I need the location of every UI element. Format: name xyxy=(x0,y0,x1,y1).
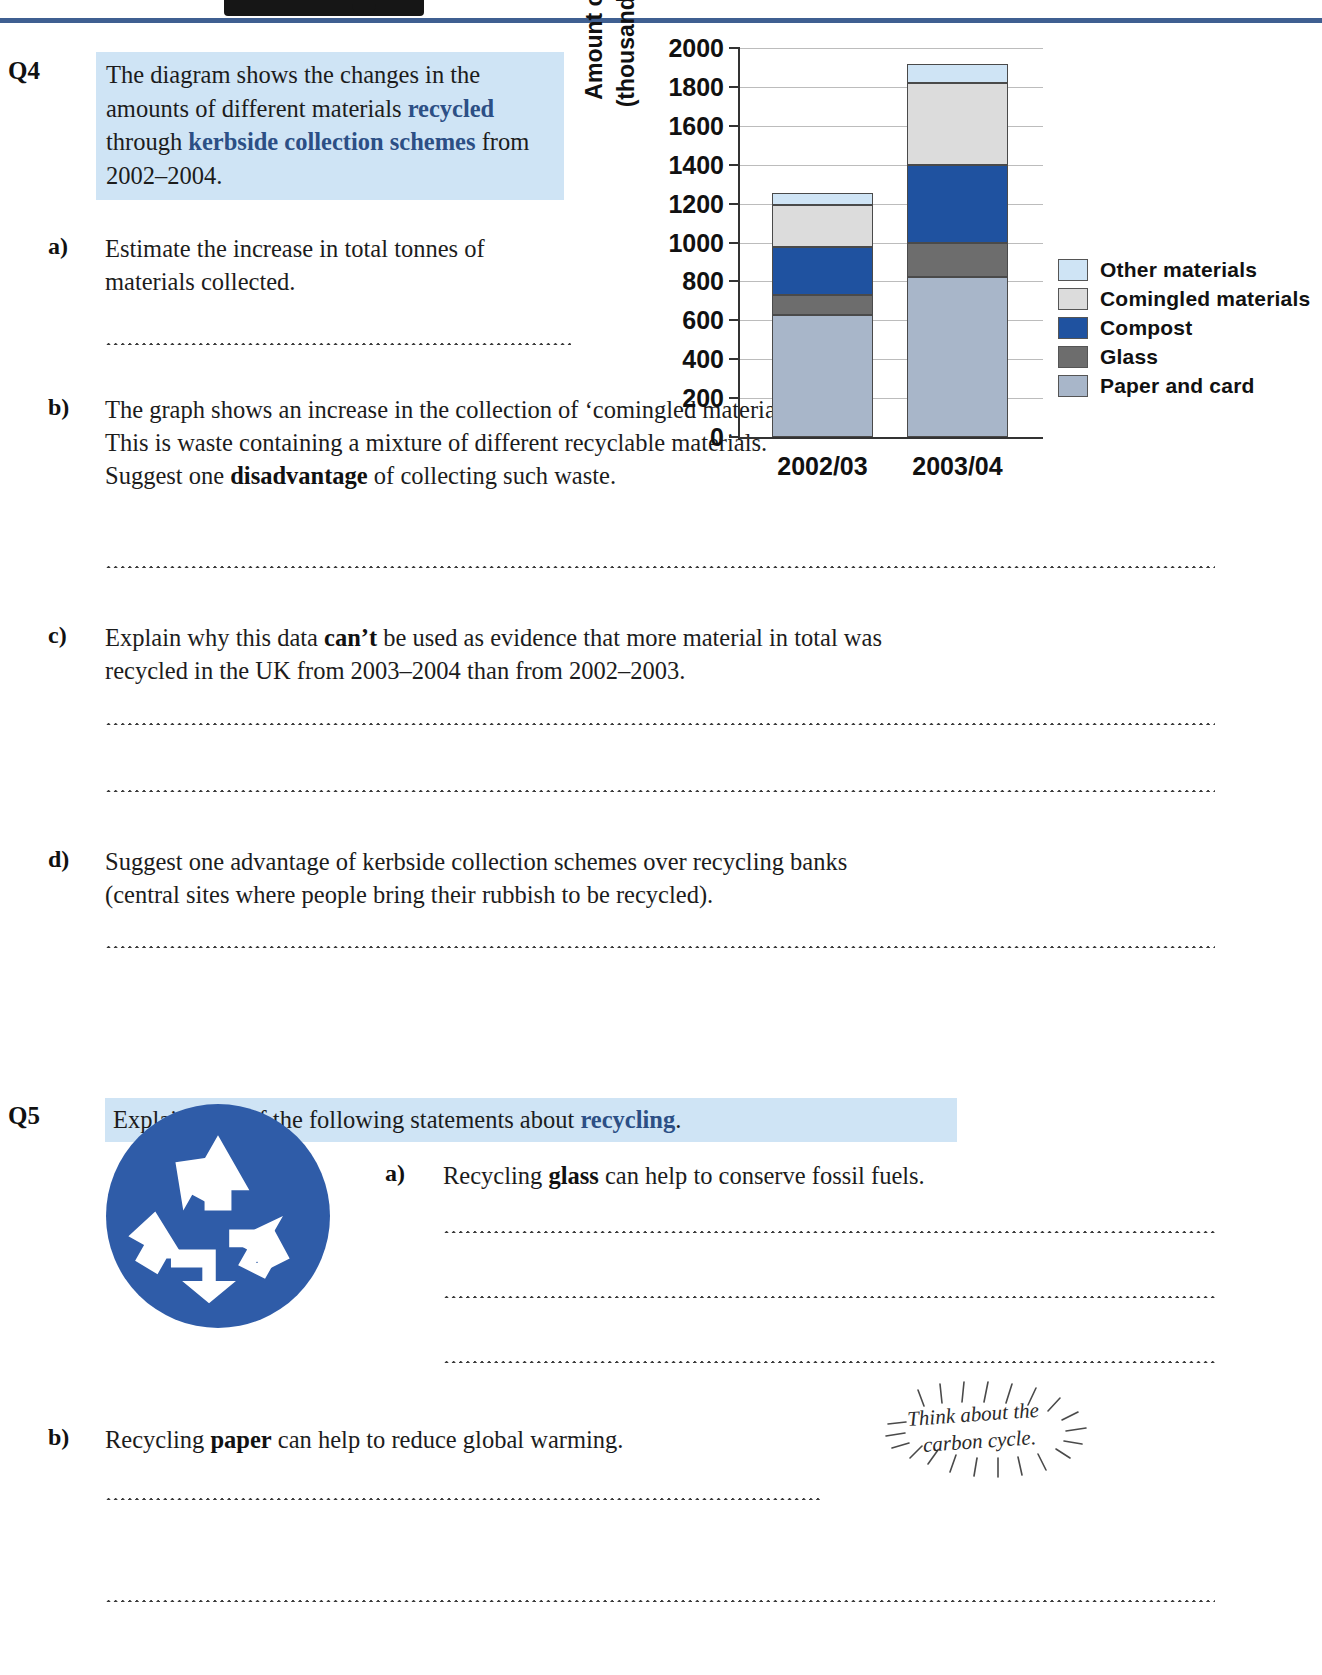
chart-y-axis-label-line2: (thousand tonnes) xyxy=(612,0,640,132)
chart-y-tick-label: 1000 xyxy=(668,229,724,258)
q5-part-b-post: can help to reduce global warming. xyxy=(272,1426,624,1453)
q5-part-b-label: b) xyxy=(48,1424,69,1451)
legend-swatch-compost xyxy=(1058,317,1088,339)
chart-y-tick xyxy=(729,280,740,282)
legend-item: Paper and card xyxy=(1058,372,1310,399)
q4-part-b-label: b) xyxy=(48,394,69,421)
chart-y-tick-label: 0 xyxy=(710,423,724,452)
question-number-q4: Q4 xyxy=(8,57,40,85)
legend-swatch-comingled-materials xyxy=(1058,288,1088,310)
q5-part-a-post: can help to conserve fossil fuels. xyxy=(599,1162,925,1189)
legend-label-compost: Compost xyxy=(1100,316,1192,340)
chart-bar xyxy=(772,193,873,437)
chart-y-tick xyxy=(729,203,740,205)
q4-part-a-text: Estimate the increase in total tonnes of… xyxy=(105,232,575,298)
answer-line-q5a-1[interactable] xyxy=(443,1228,1215,1233)
q4-part-a-label: a) xyxy=(48,233,68,260)
answer-line-q4c-1[interactable] xyxy=(105,720,1215,725)
legend-label-paper-and-card: Paper and card xyxy=(1100,374,1255,398)
chart-y-tick xyxy=(729,47,740,49)
q5-part-a-pre: Recycling xyxy=(443,1162,548,1189)
q4-part-c-text: Explain why this data can’t be used as e… xyxy=(105,621,895,687)
q5-part-a-bold: glass xyxy=(548,1162,598,1189)
legend-label-other-materials: Other materials xyxy=(1100,258,1257,282)
q4-part-b-post: of collecting such waste. xyxy=(368,462,616,489)
q5-intro-post: . xyxy=(675,1106,681,1133)
chart-y-tick xyxy=(729,436,740,438)
chart-y-tick xyxy=(729,164,740,166)
recycling-logo-icon xyxy=(106,1104,330,1328)
chart-bar-segment-comingled-materials xyxy=(772,205,873,248)
legend-item: Comingled materials xyxy=(1058,285,1310,312)
q4-intro-bold-recycled: recycled xyxy=(408,95,495,122)
q4-intro-bold-kerbside: kerbside collection schemes xyxy=(188,128,475,155)
chart-y-tick-label: 1600 xyxy=(668,112,724,141)
legend-swatch-other-materials xyxy=(1058,259,1088,281)
chart-y-tick-label: 1200 xyxy=(668,190,724,219)
q4-part-c-bold: can’t xyxy=(324,624,377,651)
chart-plot-area: 0200400600800100012001400160018002000200… xyxy=(738,48,1043,439)
answer-line-q4b-1[interactable] xyxy=(105,563,1215,568)
answer-line-q5a-3[interactable] xyxy=(443,1358,1215,1363)
chart-bar-segment-comingled-materials xyxy=(907,83,1008,165)
chart-legend: Other materials Comingled materials Comp… xyxy=(1058,256,1310,401)
worksheet-page: Q4 The diagram shows the changes in the … xyxy=(0,0,1322,1675)
q4-intro-mid: through xyxy=(106,128,188,155)
q5-part-b-pre: Recycling xyxy=(105,1426,210,1453)
chart-bar-segment-glass xyxy=(772,295,873,315)
chart-y-tick-label: 200 xyxy=(682,384,724,413)
chart-y-tick xyxy=(729,242,740,244)
q5-part-b-text: Recycling paper can help to reduce globa… xyxy=(105,1423,865,1456)
q4-part-c-label: c) xyxy=(48,622,67,649)
chart-gridline xyxy=(740,48,1043,49)
answer-line-q4a-1[interactable] xyxy=(105,340,571,345)
chart-bar xyxy=(907,64,1008,437)
chart-bar-segment-glass xyxy=(907,243,1008,277)
chart-y-tick xyxy=(729,397,740,399)
legend-swatch-glass xyxy=(1058,346,1088,368)
chart-bar-segment-compost xyxy=(907,165,1008,243)
answer-line-q5a-2[interactable] xyxy=(443,1293,1215,1298)
chart-y-tick-label: 1800 xyxy=(668,73,724,102)
hint-bubble: Think about the carbon cycle. xyxy=(880,1378,1095,1478)
legend-item: Glass xyxy=(1058,343,1310,370)
chart-y-tick xyxy=(729,86,740,88)
chart-bar-segment-other-materials xyxy=(907,64,1008,83)
legend-item: Compost xyxy=(1058,314,1310,341)
answer-line-q4d-1[interactable] xyxy=(105,943,1215,948)
chart-y-tick xyxy=(729,358,740,360)
chart-y-tick xyxy=(729,125,740,127)
question-number-q5: Q5 xyxy=(8,1102,40,1130)
stacked-bar-chart: Amount of waste (thousand tonnes) 020040… xyxy=(586,34,1316,464)
chart-y-tick xyxy=(729,319,740,321)
chart-y-axis-label-line1: Amount of waste xyxy=(580,0,608,132)
answer-line-q5b-2[interactable] xyxy=(105,1597,1215,1602)
chart-bar-segment-paper-and-card xyxy=(907,277,1008,437)
chart-y-tick-label: 1400 xyxy=(668,151,724,180)
header-rule xyxy=(0,18,1322,23)
chart-y-tick-label: 800 xyxy=(682,267,724,296)
chart-y-tick-label: 400 xyxy=(682,345,724,374)
answer-line-q4c-2[interactable] xyxy=(105,787,1215,792)
answer-line-q5b-1[interactable] xyxy=(105,1495,820,1500)
q4-part-d-text: Suggest one advantage of kerbside collec… xyxy=(105,845,905,911)
header-black-tab xyxy=(224,0,424,16)
q4-part-c-pre: Explain why this data xyxy=(105,624,324,651)
chart-y-tick-label: 600 xyxy=(682,306,724,335)
chart-x-tick-label: 2002/03 xyxy=(753,452,892,481)
legend-item: Other materials xyxy=(1058,256,1310,283)
q4-intro-box: The diagram shows the changes in the amo… xyxy=(96,52,564,200)
q4-part-d-label: d) xyxy=(48,846,69,873)
chart-bar-segment-compost xyxy=(772,247,873,295)
chart-x-tick-label: 2003/04 xyxy=(888,452,1027,481)
legend-swatch-paper-and-card xyxy=(1058,375,1088,397)
legend-label-comingled-materials: Comingled materials xyxy=(1100,287,1310,311)
chart-bar-segment-other-materials xyxy=(772,193,873,205)
q4-part-b-bold: disadvantage xyxy=(230,462,368,489)
chart-y-tick-label: 2000 xyxy=(668,34,724,63)
chart-bar-segment-paper-and-card xyxy=(772,315,873,437)
q5-intro-bold: recycling xyxy=(580,1106,675,1133)
legend-label-glass: Glass xyxy=(1100,345,1158,369)
q5-part-a-label: a) xyxy=(385,1160,405,1187)
q5-part-b-bold: paper xyxy=(210,1426,271,1453)
